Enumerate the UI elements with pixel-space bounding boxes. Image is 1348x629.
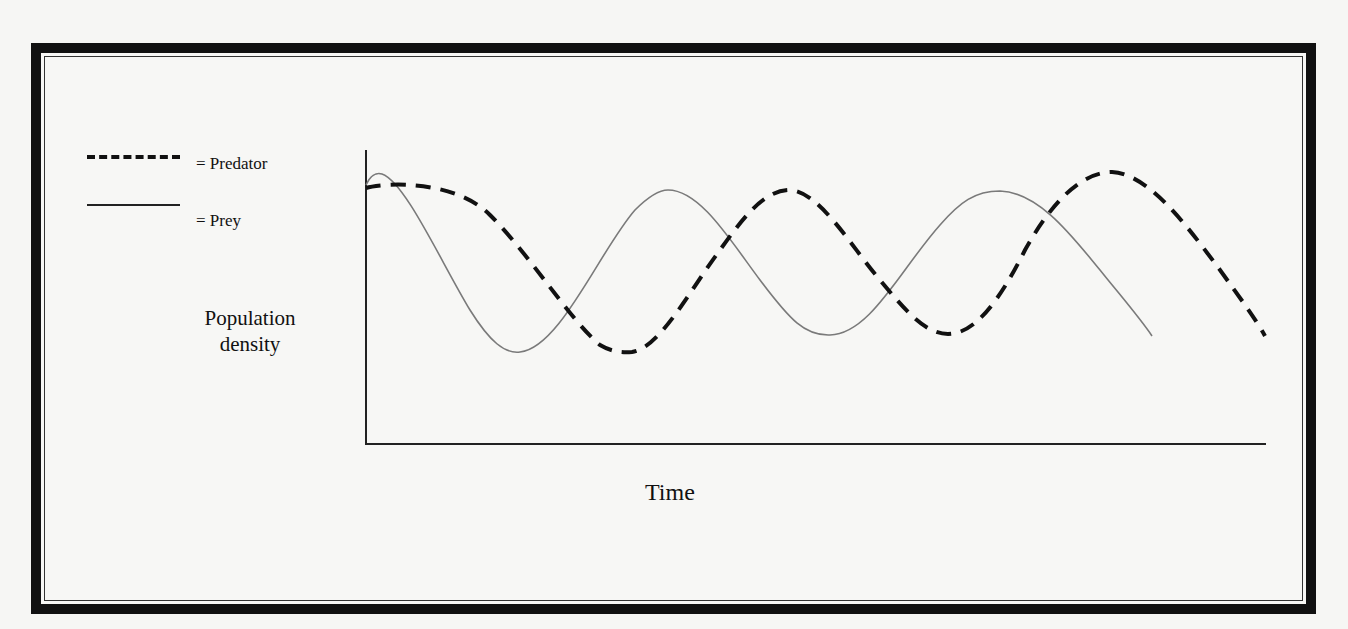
predator-line [366,172,1265,352]
prey-line [366,173,1152,352]
plot-area [0,0,1348,629]
